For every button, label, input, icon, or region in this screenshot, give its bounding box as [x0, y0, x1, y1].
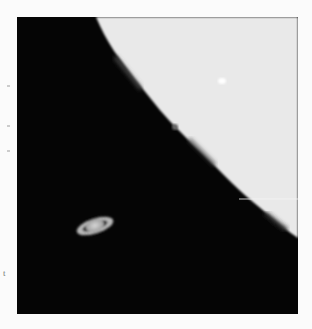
margin-text-fragment	[7, 150, 10, 152]
margin-clipped-text: t	[3, 268, 6, 278]
margin-text-fragment	[7, 125, 10, 127]
moon-limb	[17, 17, 298, 314]
saturn-planet	[75, 213, 116, 239]
margin-text-fragment	[7, 85, 10, 87]
astronomy-photo	[17, 17, 298, 314]
